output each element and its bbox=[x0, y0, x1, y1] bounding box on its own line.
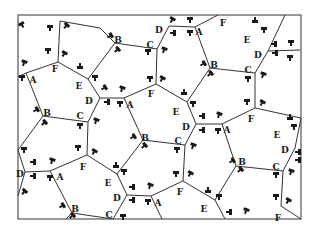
vertex-label-c: C bbox=[244, 65, 251, 75]
vertex-label-a: A bbox=[56, 172, 65, 182]
vertex-label-d: D bbox=[254, 50, 262, 60]
vertex-label-a: A bbox=[154, 198, 163, 208]
vertex-label-a: A bbox=[195, 27, 204, 37]
vertex-label-c: C bbox=[272, 162, 279, 172]
vertex-label-e: E bbox=[105, 178, 112, 188]
vertex-label-c: C bbox=[146, 40, 153, 50]
vertex-label-a: A bbox=[126, 100, 135, 110]
vertex-label-b: B bbox=[43, 108, 51, 118]
vertex-label-c: C bbox=[76, 111, 83, 121]
vertex-label-f: F bbox=[80, 162, 87, 172]
vertex-label-e: E bbox=[244, 35, 251, 45]
vertex-label-a: A bbox=[223, 125, 232, 135]
vertex-label-b: B bbox=[210, 60, 218, 70]
vertex-label-d: D bbox=[16, 169, 24, 179]
vertex-label-f: F bbox=[275, 213, 282, 223]
vertex-label-a: A bbox=[29, 75, 38, 85]
vertex-label-b: B bbox=[114, 35, 122, 45]
diagram-frame bbox=[18, 15, 301, 219]
vertex-label-b: B bbox=[238, 157, 246, 167]
vertex-label-d: D bbox=[155, 25, 163, 35]
vertex-label-b: B bbox=[141, 133, 149, 143]
vertex-label-e: E bbox=[173, 107, 180, 117]
vertex-label-e: E bbox=[76, 81, 83, 91]
vertex-label-d: D bbox=[113, 193, 121, 203]
vertex-label-c: C bbox=[174, 136, 181, 146]
vertex-label-e: E bbox=[274, 130, 281, 140]
vertex-label-e: E bbox=[201, 204, 208, 214]
vertex-label-d: D bbox=[182, 122, 190, 132]
vertex-label-f: F bbox=[177, 187, 184, 197]
vertex-label-c: C bbox=[105, 210, 112, 220]
vertex-label-f: F bbox=[52, 64, 59, 74]
vertex-label-d: D bbox=[281, 145, 289, 155]
vertex-label-b: B bbox=[71, 204, 79, 214]
vertex-label-f: F bbox=[248, 114, 255, 124]
pentagon-tiling-diagram: BCDAFEDFAEDAFBCBCEDAFEDBCDAFBCEDAFBCEF bbox=[0, 0, 319, 231]
vertex-label-f: F bbox=[220, 18, 227, 28]
vertex-label-f: F bbox=[148, 89, 155, 99]
vertex-label-d: D bbox=[85, 96, 93, 106]
